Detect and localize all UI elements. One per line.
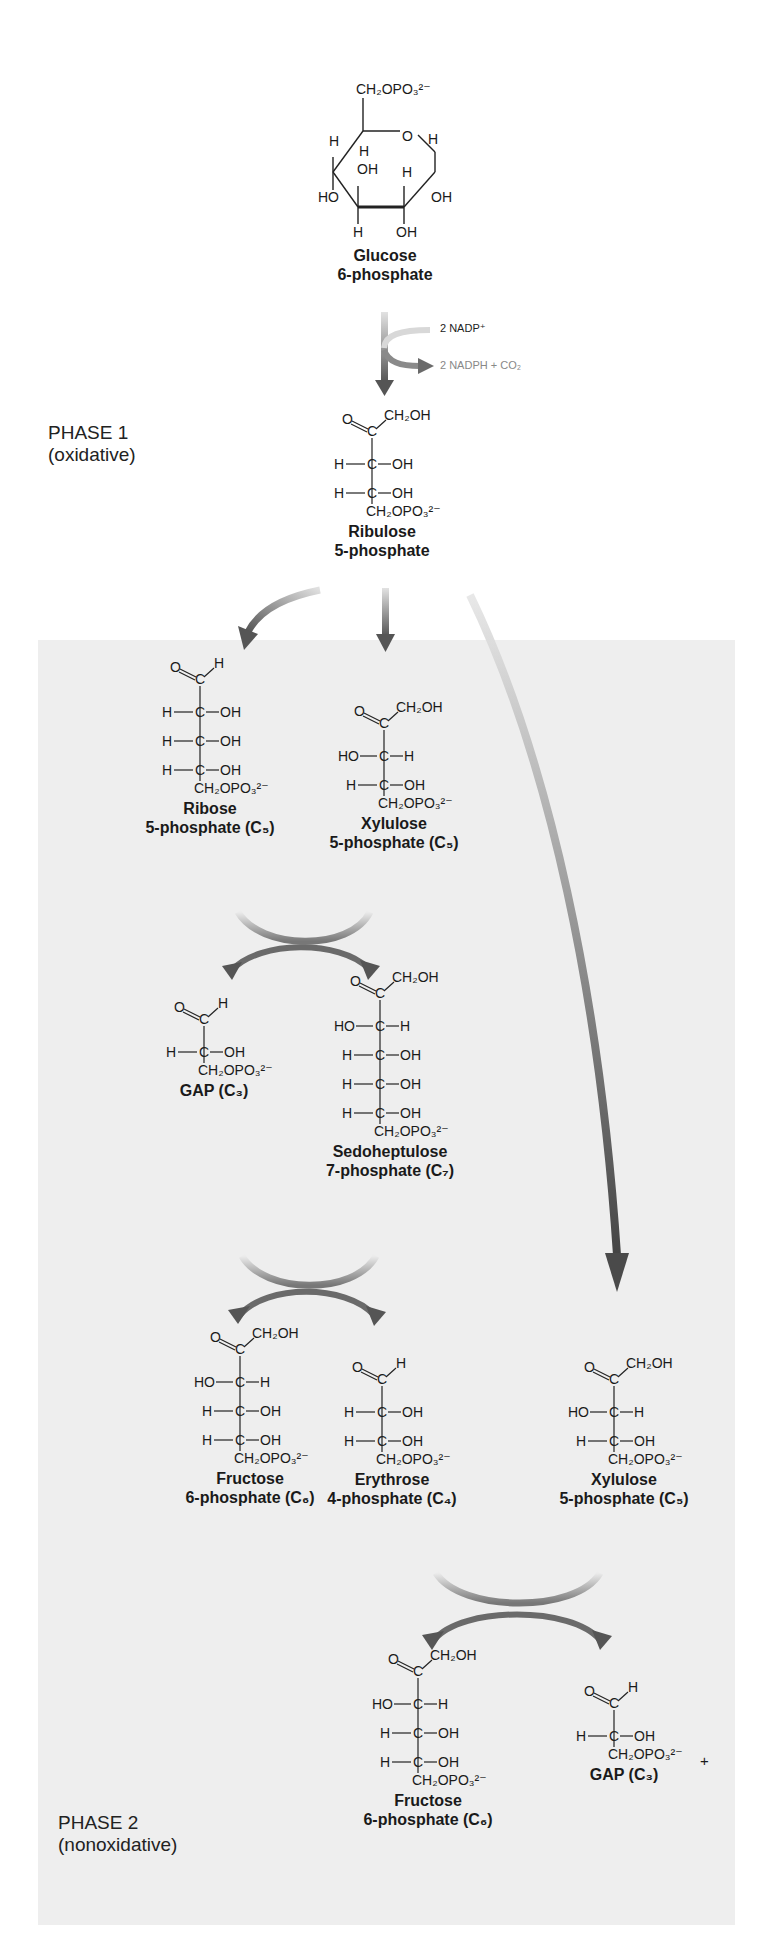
bond-lines: [318, 1652, 518, 1867]
molecule-ribose5p: OHCHCOHHCOHHCOHCH₂OPO₃²⁻Ribose5-phosphat…: [100, 660, 300, 822]
plus-sign: +: [700, 1752, 709, 1769]
atom-label: H: [359, 144, 369, 158]
molecule-name: Ribulose: [272, 522, 492, 541]
phase-subtitle: (nonoxidative): [58, 1834, 177, 1856]
phase2-label: PHASE 2 (nonoxidative): [58, 1812, 177, 1856]
molecule-name: Sedoheptulose: [280, 1142, 500, 1161]
reagent-nadph-co2: 2 NADPH + CO₂: [440, 359, 521, 371]
ring-oxygen: O: [402, 129, 413, 143]
phase-title: PHASE 2: [58, 1812, 177, 1834]
molecule-sedoheptulose7p: OCH₂OHCHOCHHCOHHCOHHCOHCH₂OPO₃²⁻Sedohept…: [280, 974, 480, 1227]
phase1-label: PHASE 1 (oxidative): [48, 422, 136, 466]
atom-label: HO: [318, 190, 339, 204]
phase-subtitle: (oxidative): [48, 444, 136, 466]
atom-label: H: [329, 134, 339, 148]
molecule-name: Xylulose: [514, 1470, 734, 1489]
molecule-gap-b: OHCHCOHCH₂OPO₃²⁻GAP (C₃): [514, 1684, 714, 1799]
atom-label: OH: [431, 190, 452, 204]
molecule-xylulose5p-a: OCH₂OHCHOCHHCOHCH₂OPO₃²⁻Xylulose5-phosph…: [284, 704, 484, 862]
molecule-ribulose5p: OCH₂OHCHCOHHCOHCH₂OPO₃²⁻Ribulose5-phosph…: [272, 412, 472, 604]
atom-label: H: [402, 165, 412, 179]
molecule-name: Xylulose: [284, 814, 504, 833]
bond-lines: [104, 1000, 304, 1087]
molecule-name: 6-phosphate: [300, 265, 470, 284]
molecule-name: Glucose: [300, 246, 470, 265]
atom-label: OH: [357, 162, 378, 176]
molecule-name: 4-phosphate (C₄): [282, 1489, 502, 1508]
molecule-xylulose5p-b: OCH₂OHCHOCHHCOHCH₂OPO₃²⁻Xylulose5-phosph…: [514, 1360, 714, 1523]
transketolase-arrow-2: [422, 1573, 612, 1650]
molecule-gap-a: OHCHCOHCH₂OPO₃²⁻GAP (C₃): [104, 1000, 304, 1117]
molecule-name: 5-phosphate: [272, 541, 492, 560]
group-label: CH₂OPO₃²⁻: [356, 82, 431, 96]
molecule-glucose-6-phosphate: CH₂OPO₃²⁻ O H H H OH H HO OH H OH Glucos…: [300, 82, 460, 287]
bond-lines: [100, 660, 300, 792]
molecule-name: 6-phosphate (C₆): [318, 1810, 538, 1829]
transaldolase-arrow: [228, 1256, 386, 1326]
molecule-name: 5-phosphate (C₅): [514, 1489, 734, 1508]
bond-lines: [514, 1684, 714, 1769]
atom-label: OH: [396, 225, 417, 239]
molecule-name: Fructose: [318, 1791, 538, 1810]
molecule-erythrose4p: OHCHCOHHCOHCH₂OPO₃²⁻Erythrose4-phosphate…: [282, 1360, 482, 1540]
oxidative-arrow: [375, 312, 434, 396]
molecule-name: 7-phosphate (C₇): [280, 1161, 500, 1180]
atom-label: H: [353, 225, 363, 239]
bond-lines: [284, 704, 484, 832]
transketolase-arrow-1: [222, 912, 380, 980]
atom-label: H: [428, 132, 438, 146]
molecule-name: 5-phosphate (C₅): [284, 833, 504, 852]
reagent-nadp: 2 NADP⁺: [440, 322, 486, 335]
molecule-name: Erythrose: [282, 1470, 502, 1489]
molecule-fructose6p-b: OCH₂OHCHOCHHCOHHCOHCH₂OPO₃²⁻Fructose6-ph…: [318, 1652, 518, 1897]
phase-title: PHASE 1: [48, 422, 136, 444]
